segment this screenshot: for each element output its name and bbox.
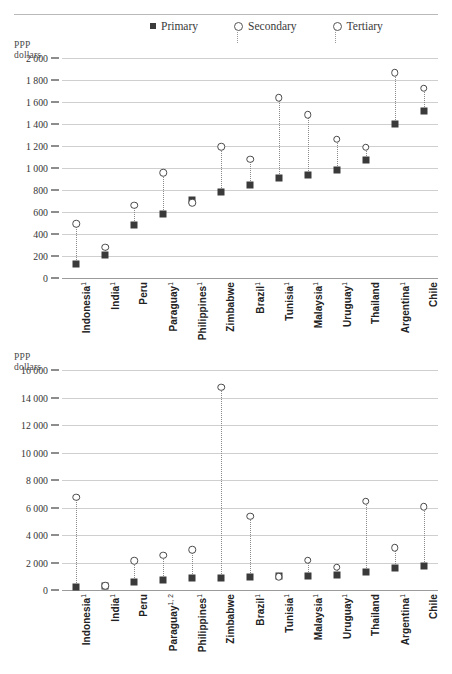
gridline (62, 370, 438, 371)
marker-primary (73, 260, 80, 267)
marker-primary (362, 157, 369, 164)
marker-tertiary (246, 513, 254, 521)
axis-baseline (62, 278, 438, 279)
x-axis-label: Indonesia1 (80, 282, 92, 333)
page-top-clipped-text (0, 0, 452, 8)
marker-primary (160, 577, 167, 584)
y-axis-tick-label: 8 000 (26, 475, 48, 486)
connector-stem (279, 97, 280, 178)
plot-area-top: 02004006008001 0001 2001 4001 6001 8002 … (62, 58, 438, 278)
gridline (62, 190, 438, 191)
y-axis-tick (51, 101, 59, 103)
y-axis-tick (51, 277, 59, 279)
chart-legend: Primary Secondary Tertiary (150, 20, 383, 32)
x-axis-label: Uruguay1 (341, 282, 353, 327)
y-axis-tick-label: 400 (33, 229, 48, 240)
gridline (62, 80, 438, 81)
y-axis-tick-label: 2 000 (26, 53, 48, 64)
y-axis-tick-label: 2 000 (26, 557, 48, 568)
marker-primary (218, 189, 225, 196)
header-rule (14, 14, 438, 15)
x-axis-label: Tunisia1 (283, 282, 295, 321)
y-axis-tick-label: 1 200 (26, 141, 48, 152)
legend-stem-tertiary (335, 30, 336, 43)
marker-secondary (391, 69, 399, 77)
marker-secondary (188, 199, 196, 207)
y-axis-tick-label: 0 (43, 585, 48, 596)
y-axis-tick-label: 1 800 (26, 75, 48, 86)
y-axis-tick (51, 211, 59, 213)
marker-secondary (159, 169, 167, 177)
y-axis-tick (51, 123, 59, 125)
marker-primary (333, 571, 340, 578)
marker-tertiary (188, 546, 196, 554)
y-axis-tick (51, 479, 59, 481)
y-axis-tick-label: 1 000 (26, 163, 48, 174)
marker-secondary (246, 155, 254, 163)
y-axis-tick (51, 167, 59, 169)
x-axis-label: Philippines1 (196, 282, 208, 340)
connector-stem (308, 114, 309, 175)
y-axis-tick-label: 800 (33, 185, 48, 196)
filled-square-icon (150, 23, 156, 29)
marker-secondary (275, 94, 283, 102)
marker-tertiary (217, 383, 225, 391)
x-axis-label: Paraguay1, 2 (167, 594, 179, 651)
figure-page: Primary Secondary Tertiary PPP dollars 0… (0, 0, 452, 674)
y-axis-tick (51, 397, 59, 399)
marker-tertiary (391, 544, 399, 552)
marker-secondary (102, 243, 110, 251)
legend-label-primary: Primary (161, 20, 198, 32)
x-axis-labels-bottom: Indonesia1India1PeruParaguay1, 2Philippi… (62, 594, 438, 674)
marker-secondary (131, 202, 139, 210)
marker-primary (247, 182, 254, 189)
marker-primary (218, 574, 225, 581)
marker-primary (420, 107, 427, 114)
x-axis-label: Philippines1 (196, 594, 208, 652)
gridline (62, 234, 438, 235)
y-axis-tick (51, 255, 59, 257)
marker-tertiary (159, 552, 167, 560)
x-axis-label: Chile (428, 594, 439, 619)
x-axis-label: Uruguay1 (341, 594, 353, 639)
gridline (62, 212, 438, 213)
x-axis-label: Chile (428, 282, 439, 307)
y-axis-tick (51, 233, 59, 235)
y-axis-tick-label: 4 000 (26, 530, 48, 541)
y-axis-tick-label: 12 000 (21, 420, 48, 431)
marker-tertiary (73, 493, 81, 501)
marker-primary (420, 562, 427, 569)
marker-secondary (73, 220, 81, 228)
marker-tertiary (131, 557, 139, 565)
marker-primary (102, 251, 109, 258)
gridline (62, 398, 438, 399)
gridline (62, 256, 438, 257)
x-axis-label: Paraguay1 (167, 282, 179, 332)
marker-tertiary (362, 497, 370, 505)
x-axis-label: Peru (138, 594, 149, 617)
gridline (62, 102, 438, 103)
marker-primary (160, 211, 167, 218)
connector-stem (76, 497, 77, 588)
y-axis-tick (51, 145, 59, 147)
connector-stem (221, 146, 222, 192)
x-axis-labels-top: Indonesia1India1PeruParaguay1Philippines… (62, 282, 438, 362)
marker-tertiary (420, 503, 428, 511)
gridline (62, 453, 438, 454)
x-axis-label: Brazil1 (254, 282, 266, 314)
x-axis-label: India1 (109, 594, 121, 622)
x-axis-label: Zimbabwe (225, 282, 236, 332)
y-axis-tick-label: 1 400 (26, 119, 48, 130)
x-axis-label: Thailand (370, 282, 381, 324)
marker-secondary (420, 84, 428, 92)
marker-primary (391, 121, 398, 128)
y-axis-tick-label: 16 000 (21, 365, 48, 376)
x-axis-label: Peru (138, 282, 149, 305)
marker-primary (362, 569, 369, 576)
marker-primary (304, 572, 311, 579)
gridline (62, 508, 438, 509)
open-circle-icon (333, 22, 342, 31)
connector-stem (221, 387, 222, 578)
legend-stem-secondary (237, 30, 238, 43)
y-axis-tick-label: 1 600 (26, 97, 48, 108)
